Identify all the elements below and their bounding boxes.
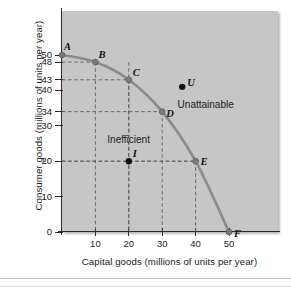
point-label-D: D [166, 109, 174, 120]
point-marker-E [193, 158, 199, 164]
chart-overlay [0, 0, 291, 294]
point-marker-I [126, 158, 132, 164]
point-marker-F [226, 229, 232, 235]
region-label-unattainable: Unattainable [178, 100, 234, 110]
point-marker-C [126, 77, 132, 83]
point-label-E: E [201, 157, 208, 168]
page-rule-top [0, 278, 291, 279]
ppf-figure: Consumer goods (millions of units per ye… [0, 0, 291, 294]
point-label-C: C [133, 68, 140, 79]
point-marker-A [59, 52, 65, 58]
page-rule-bottom [0, 286, 291, 287]
dashed-guide-lines [62, 62, 196, 232]
point-label-I: I [133, 149, 137, 160]
point-marker-U [179, 84, 185, 90]
point-label-A: A [64, 42, 71, 53]
point-marker-D [159, 109, 165, 115]
region-label-inefficient: Inefficient [107, 135, 150, 145]
point-label-F: F [234, 229, 241, 240]
point-label-B: B [98, 50, 105, 61]
point-label-U: U [187, 78, 195, 89]
